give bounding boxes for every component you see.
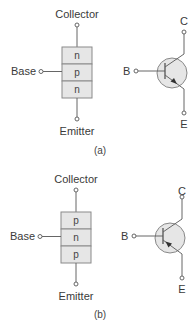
layer-middle-label: n — [73, 232, 79, 243]
symbol-emitter-terminal — [182, 111, 186, 115]
collector-terminal — [74, 188, 78, 192]
caption-b: (b) — [94, 309, 106, 320]
emitter-label: Emitter — [59, 290, 94, 302]
emitter-label: Emitter — [60, 125, 95, 137]
layer-middle-label: p — [74, 67, 80, 78]
layer-bottom-label: p — [73, 249, 79, 260]
transistor-diagram: Collector n p n Base Emitter C B E (a) C… — [0, 0, 193, 329]
base-label: Base — [11, 65, 36, 77]
collector-label: Collector — [55, 8, 99, 20]
panel-a: Collector n p n Base Emitter C B E (a) — [11, 8, 188, 156]
symbol-base-terminal — [132, 234, 136, 238]
symbol-base-label: B — [123, 65, 130, 77]
symbol-emitter-terminal — [180, 276, 184, 280]
caption-a: (a) — [94, 145, 106, 156]
base-terminal — [38, 235, 42, 239]
base-label: Base — [10, 230, 35, 242]
panel-b: Collector p n p Base Emitter C B E (b) — [10, 173, 186, 320]
collector-label: Collector — [54, 173, 98, 185]
layer-bottom-label: n — [74, 84, 80, 95]
emitter-terminal — [75, 117, 79, 121]
layer-top-label: p — [73, 215, 79, 226]
symbol-collector-terminal — [182, 30, 186, 34]
symbol-base-terminal — [134, 69, 138, 73]
symbol-collector-label: C — [180, 15, 188, 27]
symbol-collector-terminal — [180, 195, 184, 199]
symbol-emitter-label: E — [180, 118, 187, 130]
layer-top-label: n — [74, 50, 80, 61]
symbol-base-label: B — [121, 230, 128, 242]
collector-terminal — [75, 23, 79, 27]
base-terminal — [39, 70, 43, 74]
symbol-emitter-label: E — [178, 283, 185, 295]
emitter-terminal — [74, 282, 78, 286]
